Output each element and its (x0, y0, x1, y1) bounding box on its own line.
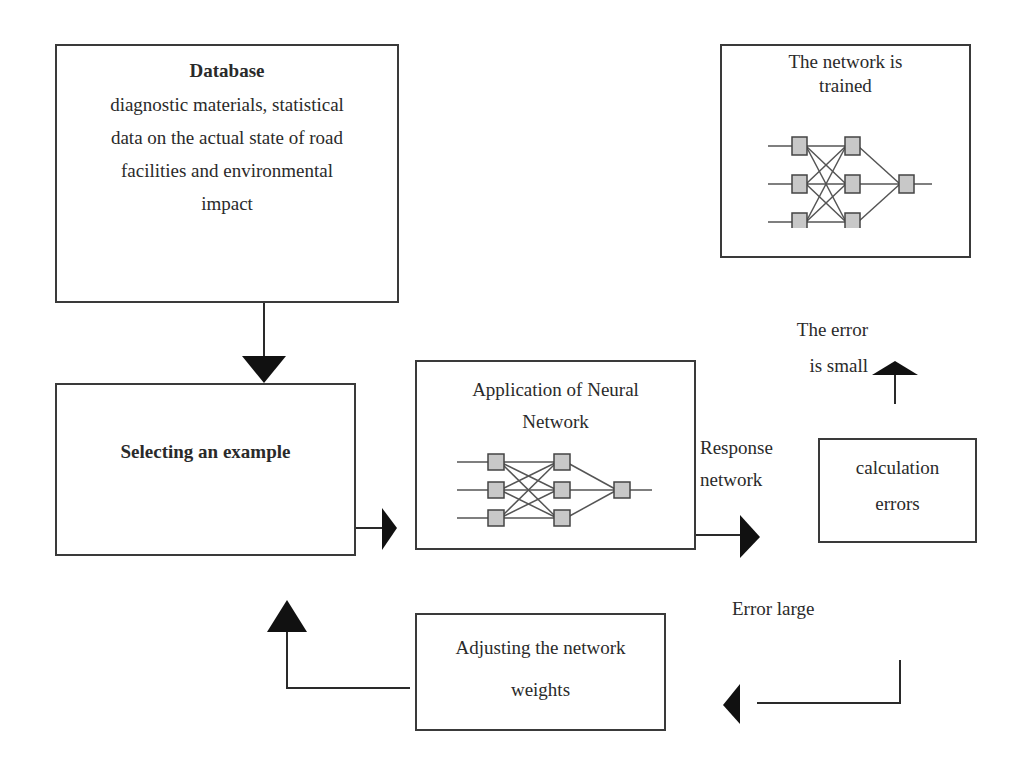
application-title: Application of Neural Network (417, 374, 694, 438)
calculation-title: calculation errors (820, 450, 975, 522)
database-box: Database diagnostic materials, statistic… (55, 44, 399, 303)
database-line: impact (57, 187, 397, 220)
connector-error-large (757, 660, 900, 703)
adjusting-title: Adjusting the network weights (417, 627, 664, 711)
database-line: facilities and environmental (57, 154, 397, 187)
calculation-line: errors (820, 486, 975, 522)
database-line: data on the actual state of road (57, 121, 397, 154)
connector-adjusting-selecting (287, 630, 410, 688)
calculation-line: calculation (820, 450, 975, 486)
error-small-line: The error (768, 312, 868, 348)
calculation-errors-box: calculation errors (818, 438, 977, 543)
error-small-label: The error is small (768, 312, 868, 384)
network-trained-box: The network is trained (720, 44, 971, 258)
selecting-title: Selecting an example (57, 437, 354, 467)
arrow-up-icon (872, 361, 918, 375)
arrow-up-icon (267, 600, 307, 632)
application-box: Application of Neural Network (415, 360, 696, 550)
response-line: network (700, 464, 773, 496)
adjusting-line: weights (417, 669, 664, 711)
neural-network-icon (766, 132, 946, 228)
error-large-label: Error large (732, 594, 814, 624)
arrow-down-icon (242, 356, 286, 383)
arrow-right-icon (740, 515, 760, 558)
database-description: diagnostic materials, statistical data o… (57, 88, 397, 220)
arrow-left-icon (723, 684, 740, 724)
error-small-line: is small (768, 348, 868, 384)
trained-title: The network is trained (722, 50, 969, 98)
application-line: Network (417, 406, 694, 438)
neural-network-icon (452, 450, 662, 530)
application-line: Application of Neural (417, 374, 694, 406)
selecting-box: Selecting an example (55, 383, 356, 556)
adjusting-weights-box: Adjusting the network weights (415, 613, 666, 731)
arrow-right-icon (382, 508, 397, 550)
trained-line: The network is (722, 50, 969, 74)
response-line: Response (700, 432, 773, 464)
response-network-label: Response network (700, 432, 773, 496)
database-title: Database (57, 56, 397, 86)
trained-line: trained (722, 74, 969, 98)
adjusting-line: Adjusting the network (417, 627, 664, 669)
database-line: diagnostic materials, statistical (57, 88, 397, 121)
